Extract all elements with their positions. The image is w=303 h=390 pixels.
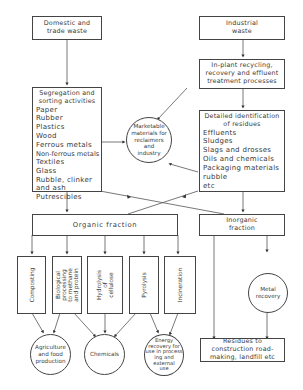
residue-item: Sludges xyxy=(203,137,281,146)
process-line: and protein xyxy=(73,268,79,302)
metal-recovery-circle: Metal recovery xyxy=(248,273,288,313)
segregation-title-2: sorting activities xyxy=(36,98,98,106)
organic-fraction-label: Organic fraction xyxy=(73,221,137,229)
residue-item: Slags and drosses xyxy=(203,146,281,155)
residues-construction-box: Residues to construction road- making, l… xyxy=(200,338,285,362)
detailed-identification-box: Detailed identification of residues Effl… xyxy=(199,110,285,192)
process-line: Pyrolysis xyxy=(141,272,147,297)
domestic-trade-waste-box: Domestic and trade waste xyxy=(32,16,102,40)
industrial-waste-label-2: waste xyxy=(232,28,252,36)
energy-label: use xyxy=(159,366,168,372)
chemicals-label: Chemicals xyxy=(90,351,119,358)
marketable-label: reclaimers xyxy=(134,137,163,144)
residue-item: rubble xyxy=(203,173,281,182)
agriculture-label: Agriculture xyxy=(35,344,66,351)
residues-title-2: of residues xyxy=(203,121,281,129)
segregation-item: Glass xyxy=(36,167,98,176)
agriculture-label: production xyxy=(35,358,65,365)
metal-recovery-label: recovery xyxy=(256,293,280,300)
marketable-label: and xyxy=(144,143,155,150)
process-composting: Composting xyxy=(17,256,46,314)
segregation-item: Plastics xyxy=(36,123,98,132)
segregation-item: Wood xyxy=(36,132,98,141)
organic-fraction-box: Organic fraction xyxy=(32,214,178,236)
segregation-item: Textiles xyxy=(36,158,98,167)
process-pyrolysis: Pyrolysis xyxy=(129,256,159,314)
chemicals-circle: Chemicals xyxy=(84,334,125,375)
segregation-item: Ferrous metals xyxy=(36,141,98,150)
metal-recovery-label: Metal xyxy=(260,286,275,293)
marketable-label: industry xyxy=(138,150,161,157)
process-line: Composting xyxy=(28,268,34,303)
segregation-item: Rubber xyxy=(36,114,98,123)
biological-label: Biological processing to methane and pro… xyxy=(55,268,79,302)
residues-construction-label: making, landfill etc xyxy=(210,354,275,362)
energy-recovery-circle: Energy recovery for use in process ing a… xyxy=(144,334,184,376)
segregation-item: Non-ferrous metals xyxy=(36,150,98,158)
process-hydrolysis: Hydrolysis of cellulose xyxy=(87,256,123,314)
marketable-materials-circle: Marketable materials for reclaimers and … xyxy=(126,117,172,163)
composting-label: Composting xyxy=(28,268,34,303)
marketable-label: materials for xyxy=(131,130,167,137)
segregation-item: Putrescibles xyxy=(36,193,98,202)
segregation-item: Rubble, clinker xyxy=(36,176,98,185)
agriculture-food-circle: Agriculture and food production xyxy=(30,334,71,375)
process-line: Incineration xyxy=(177,268,183,302)
inplant-label-3: treatment processes xyxy=(207,78,277,86)
inorganic-fraction-box: Inorganic fraction xyxy=(199,214,285,236)
residue-item: etc xyxy=(203,182,281,191)
residue-item: Effluents xyxy=(203,129,281,138)
inplant-recycling-box: In-plant recycling, recovery and effluen… xyxy=(199,59,285,89)
residue-item: Packaging materials xyxy=(203,164,281,173)
incineration-label: Incineration xyxy=(177,268,183,302)
agriculture-label: and food xyxy=(38,351,63,358)
segregation-sorting-box: Segregation and sorting activities Paper… xyxy=(32,87,102,192)
segregation-item: and ash xyxy=(36,184,98,193)
domestic-waste-label-2: trade waste xyxy=(47,28,87,36)
hydrolysis-label: Hydrolysis of cellulose xyxy=(96,270,114,300)
process-line: cellulose xyxy=(108,270,114,300)
inorganic-label-2: fraction xyxy=(229,225,255,233)
residue-item: Oils and chemicals xyxy=(203,155,281,164)
process-biological: Biological processing to methane and pro… xyxy=(52,256,82,314)
segregation-item: Paper xyxy=(36,106,98,115)
marketable-label: Marketable xyxy=(133,123,164,130)
pyrolysis-label: Pyrolysis xyxy=(141,272,147,297)
process-incineration: Incineration xyxy=(164,256,196,314)
industrial-waste-box: Industrial waste xyxy=(199,16,285,40)
